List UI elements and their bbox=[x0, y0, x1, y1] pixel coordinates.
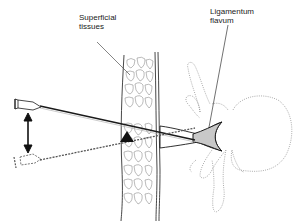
pivot-marker-icon bbox=[120, 131, 134, 142]
nerve-block-diagram bbox=[0, 0, 300, 221]
label-ligamentum-flavum: Ligamentum flavum bbox=[210, 7, 254, 25]
leader-ligamentum bbox=[207, 25, 228, 138]
label-superficial-tissues: Superficial tissues bbox=[79, 13, 116, 31]
double-arrow-icon bbox=[24, 113, 32, 153]
leader-superficial bbox=[97, 42, 130, 75]
